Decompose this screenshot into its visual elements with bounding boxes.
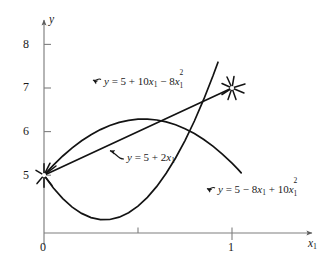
annotation-convex-parabola: y = 5 − 8x1 + 10x12 — [218, 182, 299, 195]
x-axis-label: x1 — [308, 238, 317, 250]
eq1-operator-2: − — [157, 75, 169, 87]
x-tick-label-0: 0 — [40, 241, 46, 253]
annotation-straight-line: y = 5 + 2x1 — [127, 152, 175, 163]
eq3-x-squared-indices: 12 — [294, 182, 299, 193]
x-tick-label-1: 1 — [228, 241, 234, 253]
eq2-equals: = — [132, 151, 144, 163]
eq2-variable-x-subscript: 1 — [171, 156, 175, 165]
eq3-coefficient-a: 10 — [278, 183, 289, 195]
leader-convex-parabola — [207, 187, 215, 188]
y-tick-label-6: 6 — [23, 125, 29, 137]
eq1-coefficient-b: 10 — [138, 75, 149, 87]
annotation-concave-parabola: y = 5 + 10x1 − 8x12 — [104, 74, 185, 87]
eq1-equals: = — [109, 75, 121, 87]
marker-origin-point — [36, 163, 56, 187]
y-axis-label: y — [49, 14, 54, 26]
marker-intersection-point — [222, 77, 245, 100]
eq3-equals: = — [223, 183, 235, 195]
axis-group — [44, 20, 312, 245]
leader-line-equation — [110, 151, 124, 159]
eq1-operator-1: + — [126, 75, 138, 87]
eq2-operator-1: + — [149, 151, 161, 163]
figure-container: 8 7 6 5 0 1 y x1 y = 5 + 10x1 − 8x12 y =… — [0, 0, 326, 271]
eq1-x-squared-indices: 12 — [180, 74, 185, 85]
curve-concave-parabola — [44, 119, 241, 175]
plot-canvas — [0, 0, 326, 271]
y-tick-label-5: 5 — [23, 169, 29, 181]
eq3-operator-2: + — [266, 183, 278, 195]
y-tick-label-8: 8 — [23, 38, 29, 50]
y-tick-label-7: 7 — [23, 81, 29, 93]
x-axis-label-subscript: 1 — [313, 242, 317, 251]
leader-concave-parabola — [93, 79, 101, 80]
eq3-operator-1: − — [240, 183, 252, 195]
